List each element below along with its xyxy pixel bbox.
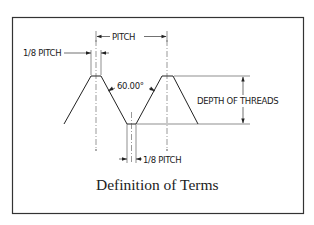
arrow-icon <box>101 51 106 54</box>
diagram-caption: Definition of Terms <box>96 176 219 193</box>
arrow-icon <box>122 157 127 160</box>
arrow-icon <box>86 51 91 54</box>
arrow-icon <box>136 157 141 160</box>
centerline-dot <box>166 149 168 151</box>
angle-label: 60.00° <box>117 81 144 91</box>
eighth-pitch-bottom-label: 1/8 PITCH <box>143 155 181 165</box>
arrow-icon <box>150 87 156 92</box>
pitch-label: PITCH <box>112 32 135 42</box>
depth-of-threads-label: DEPTH OF THREADS <box>197 96 278 106</box>
centerline-dot <box>95 149 97 151</box>
arrow-icon <box>162 35 167 38</box>
arrow-icon <box>97 35 102 38</box>
arrow-icon <box>108 87 114 92</box>
eighth-pitch-top-label: 1/8 PITCH <box>23 48 61 58</box>
arrow-icon <box>241 77 244 82</box>
arrow-icon <box>241 119 244 124</box>
thread-terms-diagram: 1/8 PITCH PITCH 60.00° DEPTH OF THREADS … <box>0 0 314 225</box>
